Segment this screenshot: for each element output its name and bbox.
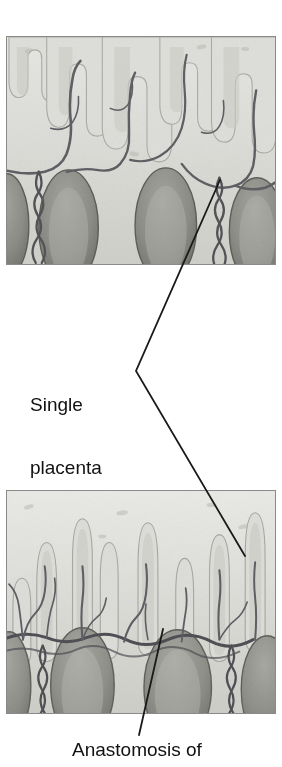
figure-container: Single placenta Anastomosis of xyxy=(0,0,282,767)
label-single-placenta-line2: placenta xyxy=(30,457,102,478)
placenta-cross-section-bottom xyxy=(6,490,276,714)
placenta-cross-section-top xyxy=(6,36,276,265)
placenta-illustration-top xyxy=(7,37,275,264)
label-anastomosis: Anastomosis of xyxy=(72,739,202,760)
label-single-placenta-line1: Single xyxy=(30,394,102,415)
label-single-placenta: Single placenta xyxy=(30,352,102,520)
placenta-illustration-bottom xyxy=(7,491,275,713)
